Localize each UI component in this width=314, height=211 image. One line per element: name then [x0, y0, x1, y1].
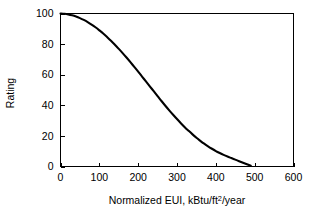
y-axis-title: Rating — [4, 78, 16, 109]
chart-figure: 0100200300400500600 020406080100 Rating … — [0, 0, 314, 211]
x-tick-label-200: 200 — [129, 171, 147, 183]
x-axis-title: Normalized EUI, kBtu/ft2/year — [109, 194, 246, 206]
x-tick-label-100: 100 — [91, 171, 109, 183]
x-tick-label-300: 300 — [168, 171, 186, 183]
y-tick-label-20: 20 — [42, 130, 54, 142]
rating-vs-eui-line-chart: 0100200300400500600 020406080100 Rating … — [0, 0, 314, 211]
x-tick-label-500: 500 — [246, 171, 264, 183]
y-tick-label-40: 40 — [42, 99, 54, 111]
y-tick-label-100: 100 — [36, 7, 54, 19]
x-tick-label-600: 600 — [285, 171, 303, 183]
x-tick-label-0: 0 — [58, 171, 64, 183]
x-axis-title-tail: /year — [222, 194, 246, 206]
x-axis-title-main: Normalized EUI, kBtu/ft — [109, 194, 218, 206]
x-tick-label-400: 400 — [207, 171, 225, 183]
y-tick-label-80: 80 — [42, 38, 54, 50]
y-tick-label-0: 0 — [48, 160, 54, 172]
y-tick-label-60: 60 — [42, 68, 54, 80]
